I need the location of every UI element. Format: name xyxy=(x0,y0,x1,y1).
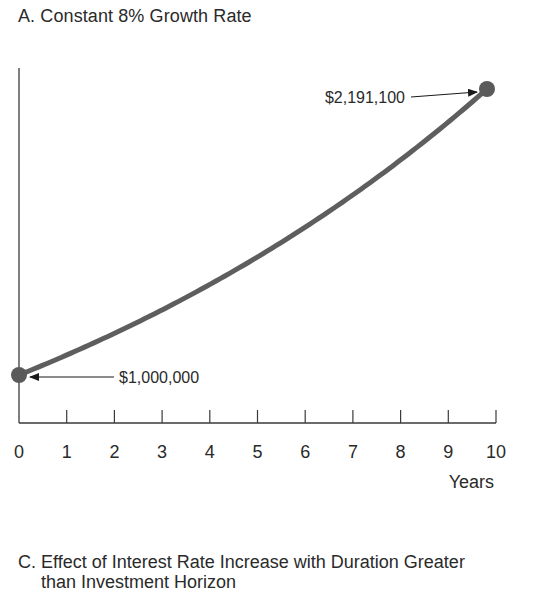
start-value-label: $1,000,000 xyxy=(119,369,199,386)
end-value-label: $2,191,100 xyxy=(325,89,405,106)
x-tick-label: 5 xyxy=(252,442,262,462)
x-axis-label: Years xyxy=(449,472,494,492)
x-tick-label: 4 xyxy=(205,442,215,462)
x-tick-label: 10 xyxy=(486,442,506,462)
chart-title-c-line2: than Investment Horizon xyxy=(18,572,465,592)
x-tick-label: 8 xyxy=(396,442,406,462)
x-tick-label: 1 xyxy=(62,442,72,462)
growth-curve xyxy=(19,89,487,375)
chart-title-c-line1: C. Effect of Interest Rate Increase with… xyxy=(18,552,465,572)
x-tick-label: 2 xyxy=(109,442,119,462)
x-tick-label: 7 xyxy=(348,442,358,462)
start-point-marker xyxy=(11,367,27,383)
end-point-marker xyxy=(479,81,495,97)
x-tick-label: 9 xyxy=(443,442,453,462)
chart-title-c: C. Effect of Interest Rate Increase with… xyxy=(18,552,465,592)
growth-line xyxy=(19,89,487,375)
x-tick-label: 6 xyxy=(300,442,310,462)
x-axis-ticks: 012345678910 xyxy=(14,410,506,462)
x-tick-label: 3 xyxy=(157,442,167,462)
growth-chart: 012345678910 $1,000,000$2,191,100 Years xyxy=(0,0,536,520)
end-arrow-icon xyxy=(411,92,477,97)
x-tick-label: 0 xyxy=(14,442,24,462)
axes xyxy=(19,68,496,423)
annotations: $1,000,000$2,191,100 xyxy=(11,81,495,386)
